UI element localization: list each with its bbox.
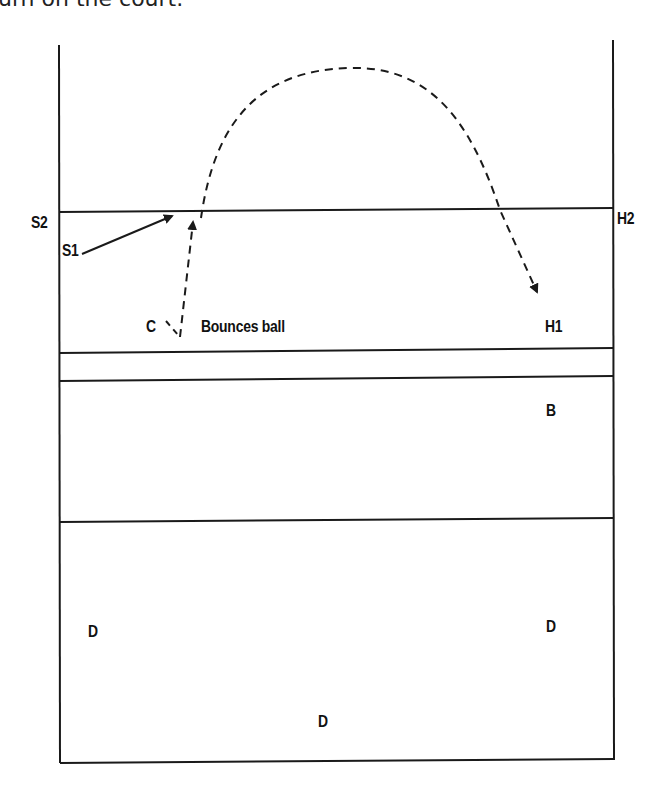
label-d-left: D xyxy=(88,622,98,642)
net-line xyxy=(59,208,613,212)
label-d-center: D xyxy=(318,712,328,732)
mid-line xyxy=(60,518,614,522)
right-sideline xyxy=(613,40,614,760)
bounce-up-arrow xyxy=(180,222,193,337)
label-b: B xyxy=(546,401,556,421)
baseline xyxy=(60,759,614,763)
label-h1: H1 xyxy=(545,317,562,337)
court-diagram xyxy=(0,0,667,794)
service-line-1 xyxy=(59,348,613,353)
label-bounces-ball: Bounces ball xyxy=(201,317,285,337)
left-sideline xyxy=(59,45,60,763)
bounce-hook xyxy=(166,321,179,336)
label-d-right: D xyxy=(546,617,556,637)
label-s2: S2 xyxy=(31,213,48,233)
service-line-2 xyxy=(59,376,613,381)
serve-arrow xyxy=(82,216,172,254)
label-h2: H2 xyxy=(617,209,634,229)
label-s1: S1 xyxy=(62,241,79,261)
label-c: C xyxy=(146,317,156,337)
ball-trajectory-arc xyxy=(201,68,537,292)
